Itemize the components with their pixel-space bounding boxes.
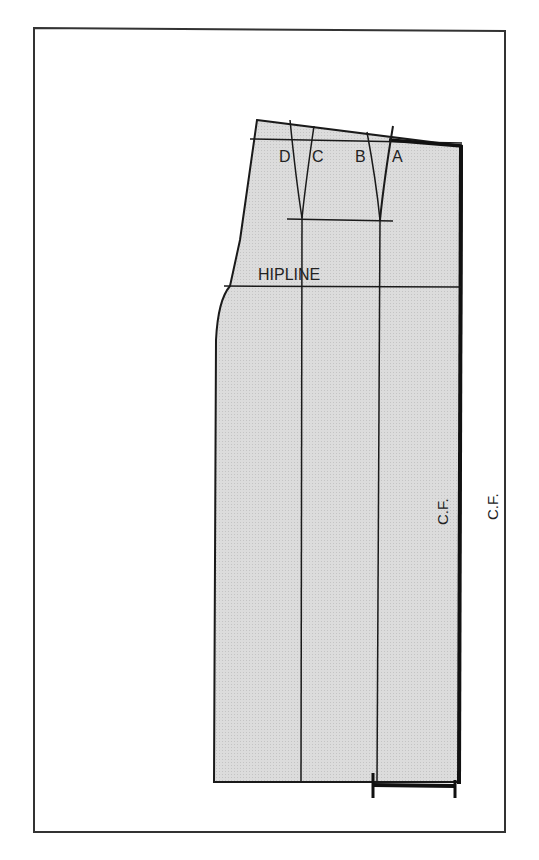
- label-hipline: HIPLINE: [258, 266, 320, 283]
- label-a: A: [392, 148, 403, 165]
- hem-bracket: [373, 785, 455, 786]
- grain-line-left: [301, 218, 302, 782]
- label-cf-outer: C.F.: [484, 493, 501, 520]
- label-c: C: [312, 148, 324, 165]
- label-d: D: [279, 148, 291, 165]
- label-b: B: [355, 148, 366, 165]
- label-cf-inner: C.F.: [434, 498, 451, 525]
- hipline: [224, 286, 461, 287]
- pattern-diagram: D C B A HIPLINE C.F. C.F.: [0, 0, 539, 860]
- center-front-edge: [459, 146, 461, 784]
